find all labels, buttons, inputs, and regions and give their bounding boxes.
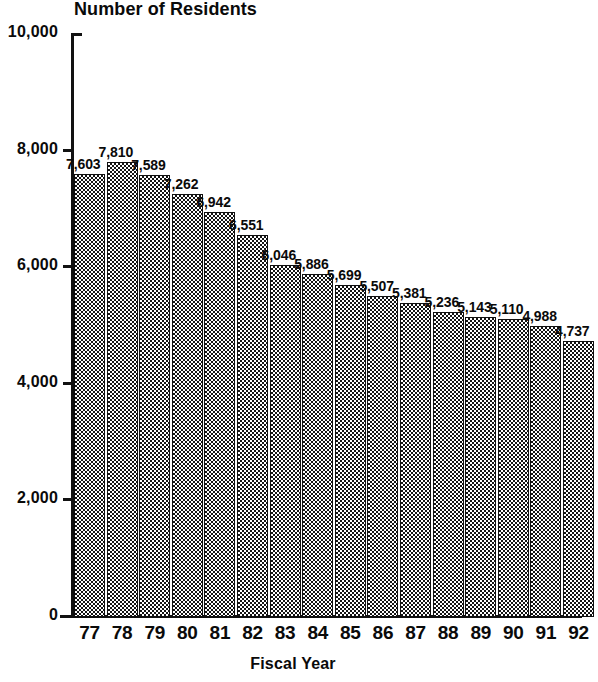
bar-value-label: 6,046: [262, 247, 297, 263]
bar: [465, 317, 496, 617]
bar-value-label: 6,942: [196, 194, 231, 210]
bar-value-label: 5,236: [425, 294, 460, 310]
bar: [433, 312, 464, 617]
bar: [563, 341, 594, 617]
bar: [172, 194, 203, 617]
bar: [400, 303, 431, 617]
plot-area: [72, 33, 582, 617]
bar: [270, 265, 301, 617]
y-tick-label: 8,000: [0, 140, 58, 158]
bar-value-label: 4,988: [522, 308, 557, 324]
bar: [107, 162, 138, 617]
bar-value-label: 5,110: [490, 301, 524, 317]
bar: [367, 296, 398, 617]
bar-value-label: 5,143: [457, 299, 492, 315]
bar: [204, 212, 235, 617]
bar: [302, 274, 333, 617]
y-tick-label: 6,000: [0, 256, 58, 274]
bar-value-label: 7,810: [99, 144, 134, 160]
bar-value-label: 5,886: [294, 256, 329, 272]
y-tick-label: 10,000: [0, 23, 58, 41]
x-axis-title: Fiscal Year: [0, 655, 586, 673]
bar: [335, 285, 366, 617]
bar: [74, 174, 105, 617]
bar-value-label: 7,603: [66, 156, 101, 172]
bar: [237, 235, 268, 617]
y-tick-label: 2,000: [0, 489, 58, 507]
bar-value-label: 6,551: [229, 217, 264, 233]
x-tick-label: 92: [559, 622, 598, 644]
bar-value-label: 7,262: [164, 176, 199, 192]
bar-value-label: 5,507: [359, 278, 394, 294]
bar-value-label: 4,737: [555, 323, 590, 339]
bar-value-label: 7,589: [131, 157, 166, 173]
chart-title: Number of Residents: [74, 0, 257, 20]
y-tick-label: 4,000: [0, 373, 58, 391]
bar-value-label: 5,699: [327, 267, 362, 283]
bar: [530, 326, 561, 617]
bar: [139, 175, 170, 617]
y-tick-label: 0: [0, 606, 58, 624]
bar-value-label: 5,381: [392, 285, 427, 301]
bar: [498, 319, 529, 617]
